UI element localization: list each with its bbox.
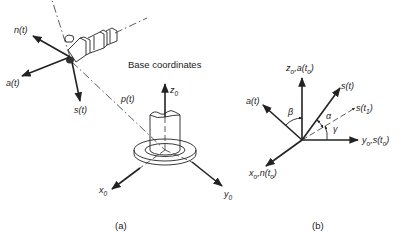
a-t-vector-arrow — [263, 105, 302, 140]
y0-axis-arrow — [192, 162, 222, 186]
p-vector-label: p(t) — [120, 94, 135, 104]
alpha-label: α — [326, 111, 332, 121]
s-t-label: s(t) — [341, 81, 354, 91]
alpha-angle-arc — [317, 120, 323, 128]
panel-b: β α γ zo,a(to) a(t) s(t) s(t1) yo,s(to) … — [246, 63, 389, 231]
s-vector-label: s(t) — [74, 105, 87, 115]
x0-axis-arrow — [112, 168, 140, 189]
panel-a-caption: (a) — [115, 220, 127, 231]
panel-b-caption: (b) — [312, 220, 324, 231]
s-vector-arrow — [72, 62, 80, 101]
x0-label: x0 — [98, 185, 108, 197]
diagram-canvas: n(t) a(t) s(t) p(t) Base coordinates z0 … — [0, 0, 403, 240]
gripper-tool — [65, 28, 117, 64]
z0-label: z0 — [169, 85, 179, 97]
s-t1-label: s(t1) — [356, 103, 373, 115]
tool-axis-dashed-line — [115, 18, 147, 33]
y0-s-t0-label: yo,s(to) — [361, 135, 389, 147]
gamma-angle-arc — [325, 126, 327, 140]
gamma-label: γ — [333, 124, 338, 134]
base-coordinates-title: Base coordinates — [128, 59, 202, 70]
beta-angle-arc — [286, 118, 302, 125]
x0-n-t0-axis-arrow — [266, 140, 302, 166]
x0-n-t0-label: xo,n(to) — [248, 168, 277, 180]
z0-a-t0-label: zo,a(to) — [285, 63, 314, 75]
a-vector-arrow — [22, 57, 70, 76]
a-t-label: a(t) — [246, 96, 260, 106]
a-vector-label: a(t) — [6, 78, 20, 88]
y0-label: y0 — [223, 189, 233, 201]
beta-label: β — [287, 107, 293, 117]
panel-a: n(t) a(t) s(t) p(t) Base coordinates z0 … — [6, 0, 233, 231]
n-vector-label: n(t) — [14, 25, 28, 35]
